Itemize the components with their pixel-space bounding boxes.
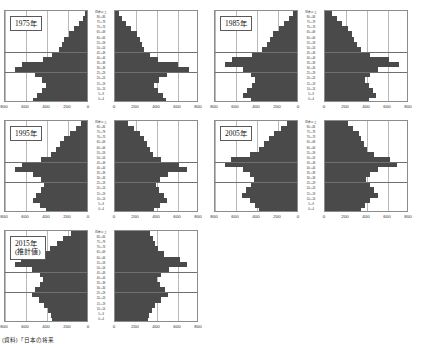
year-label-line: (推計値) bbox=[15, 248, 41, 257]
year-label-line: 2015年 bbox=[15, 239, 37, 248]
highlight-line bbox=[115, 272, 197, 273]
axis-tick-label: 0 bbox=[323, 104, 325, 109]
panel-2015-female-chart bbox=[114, 230, 198, 322]
panel-1985-left-axis: 8006004002000 bbox=[214, 104, 298, 115]
axis-tick-label: 800 bbox=[210, 104, 217, 109]
axis-tick-label: 600 bbox=[173, 214, 180, 219]
highlight-line bbox=[215, 72, 297, 73]
panel-2005-age-labels: 85歳以上80～8475～7970～7465～6960～6455～5950～54… bbox=[298, 120, 324, 212]
axis-tick-label: 800 bbox=[0, 104, 7, 109]
axis-tick-label: 400 bbox=[152, 104, 159, 109]
source-note: (資料)「日本の将来 bbox=[2, 336, 54, 344]
axis-tick-label: 200 bbox=[273, 214, 280, 219]
bar-rows bbox=[115, 231, 197, 321]
axis-tick-label: 400 bbox=[362, 104, 369, 109]
axis-tick-label: 600 bbox=[231, 104, 238, 109]
panel-1985-female-chart bbox=[324, 10, 408, 102]
axis-tick-label: 200 bbox=[341, 214, 348, 219]
bar bbox=[325, 208, 361, 212]
axis-tick-label: 0 bbox=[87, 324, 89, 329]
panel-1985-year-label: 1985年 bbox=[220, 16, 252, 31]
bar bbox=[259, 208, 297, 212]
age-label: 0～4 bbox=[88, 317, 114, 322]
panel-1995-female-chart bbox=[114, 120, 198, 212]
highlight-line bbox=[115, 52, 197, 53]
axis-tick-label: 800 bbox=[194, 214, 201, 219]
highlight-line bbox=[215, 182, 297, 183]
panel-2015: 85歳以上80～8475～7970～7465～6960～6455～5950～54… bbox=[4, 230, 198, 335]
bar-rows bbox=[325, 121, 407, 211]
panel-inner: 85歳以上80～8475～7970～7465～6960～6455～5950～54… bbox=[4, 120, 198, 225]
axis-tick-label: 0 bbox=[113, 324, 115, 329]
axis-tick-label: 400 bbox=[152, 214, 159, 219]
axis-tick-label: 600 bbox=[173, 324, 180, 329]
panel-1995-right-axis: 0200400600800 bbox=[114, 214, 198, 225]
panel-1975-age-labels: 85歳以上80～8475～7970～7465～6960～6455～5950～54… bbox=[88, 10, 114, 102]
panel-1995-year-label: 1995年 bbox=[10, 126, 42, 141]
panel-1985: 85歳以上80～8475～7970～7465～6960～6455～5950～54… bbox=[214, 10, 408, 115]
year-label-line: 1975年 bbox=[15, 19, 37, 28]
axis-tick-label: 0 bbox=[323, 214, 325, 219]
axis-tick-label: 600 bbox=[173, 104, 180, 109]
year-label-line: 2005年 bbox=[225, 129, 247, 138]
highlight-line bbox=[5, 162, 87, 163]
highlight-line bbox=[325, 162, 407, 163]
bar bbox=[46, 208, 87, 212]
bar bbox=[251, 98, 297, 102]
axis-tick-label: 800 bbox=[194, 104, 201, 109]
axis-tick-label: 400 bbox=[362, 214, 369, 219]
axis-tick-label: 200 bbox=[63, 324, 70, 329]
bar-row bbox=[115, 208, 197, 212]
bar-row bbox=[115, 318, 197, 322]
panel-1995-age-labels: 85歳以上80～8475～7970～7465～6960～6455～5950～54… bbox=[88, 120, 114, 212]
panel-2005-right-axis: 0200400600800 bbox=[324, 214, 408, 225]
axis-tick-label: 400 bbox=[42, 104, 49, 109]
highlight-line bbox=[115, 182, 197, 183]
age-label: 0～4 bbox=[298, 97, 324, 102]
age-label: 0～4 bbox=[298, 207, 324, 212]
bar-row bbox=[5, 98, 87, 102]
panel-2015-year-label: 2015年(推計値) bbox=[10, 236, 46, 260]
axis-tick-label: 800 bbox=[210, 214, 217, 219]
axis-tick-label: 0 bbox=[87, 214, 89, 219]
axis-tick-label: 400 bbox=[42, 324, 49, 329]
panel-1975-female-chart bbox=[114, 10, 198, 102]
axis-tick-label: 600 bbox=[21, 324, 28, 329]
bar-row bbox=[5, 318, 87, 322]
axis-tick-label: 200 bbox=[341, 104, 348, 109]
axis-tick-label: 800 bbox=[0, 324, 7, 329]
axis-tick-label: 800 bbox=[194, 324, 201, 329]
highlight-line bbox=[5, 52, 87, 53]
panel-inner: 85歳以上80～8475～7970～7465～6960～6455～5950～54… bbox=[214, 10, 408, 115]
axis-tick-label: 600 bbox=[383, 214, 390, 219]
panel-1975-right-axis: 0200400600800 bbox=[114, 104, 198, 115]
axis-tick-label: 0 bbox=[297, 104, 299, 109]
axis-tick-label: 200 bbox=[131, 214, 138, 219]
bar-row bbox=[215, 208, 297, 212]
panel-2005-left-axis: 8006004002000 bbox=[214, 214, 298, 225]
panel-inner: 85歳以上80～8475～7970～7465～6960～6455～5950～54… bbox=[4, 10, 198, 115]
bar-row bbox=[215, 98, 297, 102]
axis-tick-label: 200 bbox=[131, 104, 138, 109]
age-label: 0～4 bbox=[88, 97, 114, 102]
highlight-line bbox=[5, 272, 87, 273]
panel-2005-year-label: 2005年 bbox=[220, 126, 252, 141]
panel-2005: 85歳以上80～8475～7970～7465～6960～6455～5950～54… bbox=[214, 120, 408, 225]
axis-tick-label: 600 bbox=[383, 104, 390, 109]
panel-1995-left-axis: 8006004002000 bbox=[4, 214, 88, 225]
year-label-line: 1995年 bbox=[15, 129, 37, 138]
highlight-line bbox=[325, 72, 407, 73]
highlight-line bbox=[115, 162, 197, 163]
pyramid-grid: 85歳以上80～8475～7970～7465～6960～6455～5950～54… bbox=[0, 0, 422, 344]
highlight-line bbox=[215, 52, 297, 53]
panel-2015-left-axis: 8006004002000 bbox=[4, 324, 88, 335]
highlight-line bbox=[5, 292, 87, 293]
highlight-line bbox=[115, 292, 197, 293]
axis-tick-label: 800 bbox=[404, 104, 411, 109]
bar-row bbox=[5, 208, 87, 212]
highlight-line bbox=[115, 72, 197, 73]
axis-tick-label: 400 bbox=[252, 104, 259, 109]
axis-tick-label: 400 bbox=[252, 214, 259, 219]
axis-tick-label: 600 bbox=[21, 104, 28, 109]
panel-1985-age-labels: 85歳以上80～8475～7970～7465～6960～6455～5950～54… bbox=[298, 10, 324, 102]
